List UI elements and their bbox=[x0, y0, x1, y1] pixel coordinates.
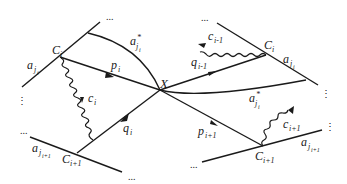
label-c-i-plus-1: c i+1 bbox=[283, 117, 301, 133]
label-right-a-j-i-plus-1: a j i+1 bbox=[301, 135, 320, 153]
svg-text:i: i bbox=[94, 98, 96, 107]
arrow-c-i-minus-1-icon bbox=[198, 43, 206, 48]
center-label-x: X bbox=[159, 76, 169, 91]
svg-text:a: a bbox=[301, 135, 307, 149]
arrow-c-i-plus-1-icon bbox=[288, 106, 294, 114]
svg-text:a: a bbox=[27, 58, 33, 72]
label-c-i-minus-1: c i-1 bbox=[208, 29, 223, 45]
right-bottom-vertical-ellipsis: ⋮ bbox=[325, 121, 335, 132]
label-left-c-i: C i bbox=[52, 43, 62, 59]
svg-text:q: q bbox=[123, 121, 129, 135]
svg-text:i+1: i+1 bbox=[311, 147, 320, 153]
left-bottom-ellipsis-end: ... bbox=[128, 171, 136, 182]
label-c-i: c i bbox=[88, 91, 96, 107]
svg-text:i+1: i+1 bbox=[205, 131, 217, 140]
left-bottom-ellipsis-start: ... bbox=[20, 125, 28, 136]
right-bottom-ellipsis: ... bbox=[190, 159, 198, 170]
sequence-diagram: ... ⋮ ... ... ... ⋮ ... ⋮ X a j i C bbox=[0, 0, 347, 184]
svg-text:i+1: i+1 bbox=[263, 156, 275, 165]
svg-text:p: p bbox=[110, 58, 117, 72]
label-left-c-i-plus-1: C i+1 bbox=[62, 152, 82, 168]
right-top-vertical-ellipsis: ⋮ bbox=[321, 88, 331, 99]
svg-text:a: a bbox=[283, 52, 289, 66]
edge-p-i bbox=[60, 57, 160, 90]
svg-text:i: i bbox=[60, 50, 62, 59]
label-left-a-star: a * j i bbox=[130, 33, 141, 53]
left-curve-a-star bbox=[88, 33, 160, 90]
svg-text:i: i bbox=[130, 128, 132, 137]
label-p-i-plus-1: p i+1 bbox=[197, 124, 217, 140]
svg-text:q: q bbox=[191, 55, 197, 69]
label-p-i: p i bbox=[110, 58, 120, 74]
left-top-ellipsis: ... bbox=[106, 11, 114, 22]
right-top-ellipsis: ... bbox=[201, 12, 209, 23]
right-top-boundary-line bbox=[217, 23, 318, 85]
svg-text:*: * bbox=[256, 90, 260, 99]
left-top-vertical-ellipsis: ⋮ bbox=[17, 95, 27, 106]
svg-text:i+1: i+1 bbox=[70, 159, 82, 168]
svg-text:i+1: i+1 bbox=[42, 153, 51, 159]
svg-text:i: i bbox=[272, 45, 274, 54]
arrow-q-i-minus-1-icon bbox=[208, 71, 217, 76]
label-right-c-i-plus-1: C i+1 bbox=[255, 149, 275, 165]
label-right-c-i: C i bbox=[264, 38, 274, 54]
svg-text:i: i bbox=[258, 104, 260, 110]
svg-text:i: i bbox=[139, 47, 141, 53]
svg-text:i-1: i-1 bbox=[214, 36, 223, 45]
svg-text:i: i bbox=[293, 64, 295, 70]
label-q-i: q i bbox=[123, 121, 132, 137]
right-curve-a-star bbox=[160, 80, 306, 93]
wavy-c-i-minus-1 bbox=[200, 52, 266, 57]
svg-text:i+1: i+1 bbox=[289, 124, 301, 133]
svg-text:p: p bbox=[197, 124, 204, 138]
svg-text:*: * bbox=[137, 33, 141, 42]
label-right-a-star: a * j i bbox=[249, 90, 260, 110]
label-q-i-minus-1: q i-1 bbox=[191, 55, 207, 71]
label-left-a-j-i: a j i bbox=[27, 58, 39, 76]
svg-text:i: i bbox=[118, 65, 120, 74]
svg-text:a: a bbox=[32, 141, 38, 155]
svg-text:i-1: i-1 bbox=[198, 62, 207, 71]
